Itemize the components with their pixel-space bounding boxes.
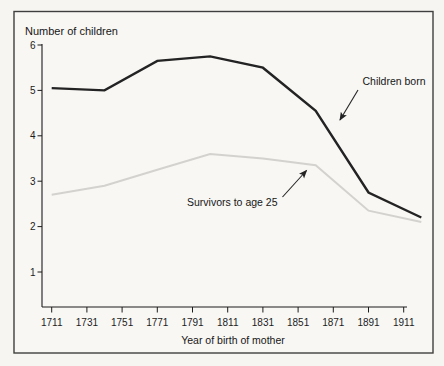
y-tick-label: 2 [30,221,36,232]
x-tick-label: 1731 [76,317,99,328]
x-tick-label: 1711 [41,317,63,328]
x-tick-label: 1771 [146,317,169,328]
children-born-annotation: Children born [363,75,426,87]
x-tick-label: 1851 [287,317,310,328]
y-axis-title: Number of children [25,25,118,37]
x-tick-label: 1751 [111,317,134,328]
y-tick-label: 5 [30,85,36,96]
x-axis-label: Year of birth of mother [181,334,285,346]
y-tick-label: 1 [30,267,36,278]
x-tick-label: 1871 [322,317,345,328]
y-tick-label: 3 [30,176,36,187]
figure-border [14,12,433,354]
y-tick-label: 6 [30,40,36,51]
line-chart-canvas: 654321 171117311751177117911811183118511… [0,0,444,366]
x-tick-label: 1791 [181,317,204,328]
x-tick-label: 1811 [217,317,239,328]
scanned-chart-page: 654321 171117311751177117911811183118511… [0,0,444,366]
x-tick-label: 1831 [252,317,275,328]
survivors-annotation: Survivors to age 25 [187,196,278,208]
x-tick-label: 1891 [357,317,380,328]
y-tick-label: 4 [30,130,36,141]
x-tick-label: 1911 [393,317,415,328]
